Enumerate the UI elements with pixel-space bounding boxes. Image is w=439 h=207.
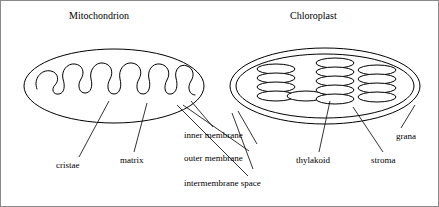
leader-inner-membrane [191,101,213,127]
leader-intermembrane-space [177,105,248,176]
mitochondrion-group [24,49,204,123]
organelle-diagram [1,1,439,207]
panel-title-chloroplast: Chloroplast [290,11,337,21]
granum-middle [316,58,354,104]
panel-title-mitochondrion: Mitochondrion [69,11,129,21]
leader-cristae [79,101,109,157]
thylakoid-disc [358,92,396,102]
label-inner-membrane: inner membrane [184,131,243,140]
chloroplast-group [230,48,420,124]
mitochondrion-cristae-icon [36,63,195,95]
leader-matrix [134,103,147,152]
thylakoid-disc [316,94,354,104]
label-thylakoid: thylakoid [296,156,330,165]
label-intermembrane-space: intermembrane space [184,179,261,188]
label-grana: grana [396,132,416,141]
label-stroma: stroma [371,156,396,165]
granum-right [358,65,396,102]
leader-grana [401,105,415,128]
label-cristae: cristae [56,161,79,170]
diagram-canvas: Mitochondrion Chloroplast cristae matrix… [0,0,439,207]
label-matrix: matrix [120,156,144,165]
leader-thylakoid [319,101,330,152]
label-outer-membrane: outer membrane [184,154,243,163]
